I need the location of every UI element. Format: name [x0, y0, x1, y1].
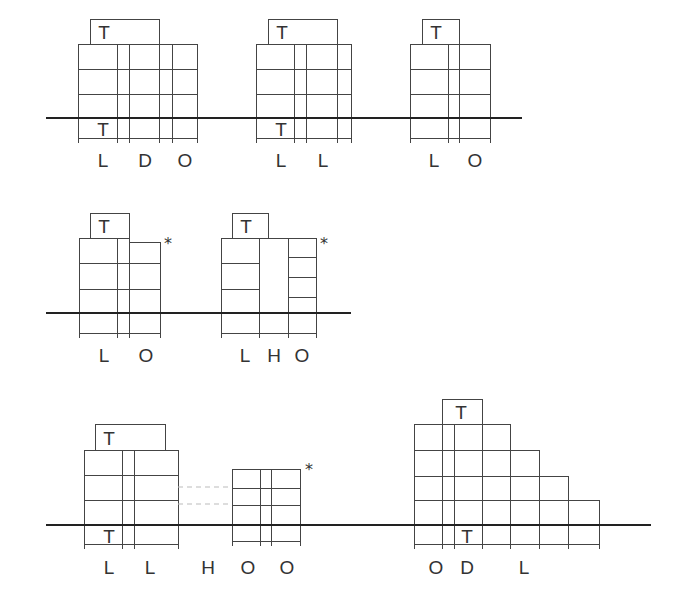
- column-label-o: O: [280, 557, 295, 578]
- column-label-l: L: [98, 150, 109, 171]
- t-box-label: T: [430, 22, 442, 43]
- column-label-d: D: [460, 557, 474, 578]
- building-b1: T T L D O: [78, 19, 197, 171]
- column-label-o: O: [178, 150, 193, 171]
- column-label-o: O: [139, 345, 154, 366]
- building-outline: [79, 238, 160, 333]
- t-lower-label: T: [103, 526, 115, 547]
- asterisk-marker: *: [320, 234, 328, 253]
- column-label-h: H: [201, 557, 215, 578]
- column-label-l: L: [429, 150, 440, 171]
- column-label-o: O: [468, 150, 483, 171]
- building-b8: T T O D L: [414, 399, 599, 578]
- building-outline: [78, 44, 197, 138]
- building-b5: T * L H O: [221, 213, 328, 366]
- t-lower-label: T: [461, 526, 473, 547]
- building-outline: [410, 44, 490, 138]
- t-lower-label: T: [97, 119, 109, 140]
- t-box-label: T: [98, 216, 110, 237]
- building-outline: [221, 238, 316, 333]
- asterisk-marker: *: [164, 234, 172, 253]
- building-b3: T L O: [410, 19, 490, 171]
- row-3: T T L L H * O O: [46, 399, 651, 578]
- diagram-canvas: T T L D O T T L: [0, 0, 673, 597]
- t-box-label: T: [240, 216, 252, 237]
- t-lower-label: T: [275, 119, 287, 140]
- t-box-label: T: [276, 22, 288, 43]
- column-label-o: O: [429, 557, 444, 578]
- t-box-label: T: [98, 22, 110, 43]
- building-b4: T * L O: [79, 213, 172, 366]
- column-label-l: L: [318, 150, 329, 171]
- row-1: T T L D O T T L: [46, 19, 522, 171]
- column-label-l: L: [276, 150, 287, 171]
- building-b6: T T L L: [84, 424, 178, 578]
- building-outline: [84, 450, 178, 544]
- column-label-l: L: [145, 557, 156, 578]
- t-box-label: T: [455, 402, 467, 423]
- column-label-o: O: [241, 557, 256, 578]
- column-label-l: L: [104, 557, 115, 578]
- column-label-o: O: [295, 345, 310, 366]
- asterisk-marker: *: [305, 460, 313, 479]
- column-label-d: D: [138, 150, 152, 171]
- building-b7: * O O: [232, 460, 313, 578]
- column-label-h: H: [267, 345, 281, 366]
- row-2: T * L O T * L: [46, 213, 351, 366]
- building-b2: T T L L: [256, 19, 351, 171]
- column-label-l: L: [519, 557, 530, 578]
- t-box-label: T: [103, 428, 115, 449]
- column-label-l: L: [240, 345, 251, 366]
- column-label-l: L: [99, 345, 110, 366]
